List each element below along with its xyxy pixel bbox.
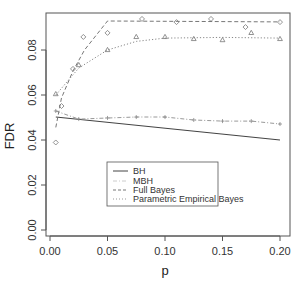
- y-tick-label: 0.08: [26, 39, 38, 60]
- y-axis: 0.000.020.040.060.08: [26, 39, 46, 240]
- fdr-line-chart: 0.000.050.100.150.20 0.000.020.040.060.0…: [0, 0, 303, 285]
- x-tick-label: 0.15: [212, 245, 233, 257]
- legend: BH MBH Full Bayes Parametric Empirical B…: [107, 162, 244, 206]
- mbh-line: [56, 111, 280, 124]
- y-tick-label: 0.00: [26, 219, 38, 240]
- diamond-marker: [174, 20, 179, 25]
- diamond-marker: [278, 20, 283, 25]
- x-tick-label: 0.10: [154, 245, 175, 257]
- series-layer: [53, 16, 282, 145]
- legend-label-peb: Parametric Empirical Bayes: [133, 194, 244, 204]
- y-tick-label: 0.04: [26, 129, 38, 150]
- triangle-marker: [220, 38, 225, 42]
- legend-label-bh: BH: [133, 166, 146, 176]
- x-axis: 0.000.050.100.150.20: [39, 236, 290, 257]
- triangle-marker: [53, 92, 58, 96]
- triangle-marker: [134, 34, 139, 38]
- x-tick-label: 0.00: [39, 245, 60, 257]
- y-axis-title: FDR: [2, 123, 17, 150]
- y-tick-label: 0.06: [26, 84, 38, 105]
- x-axis-title: p: [161, 263, 168, 278]
- diamond-marker: [243, 25, 248, 30]
- triangle-marker: [249, 30, 254, 34]
- diamond-marker: [105, 30, 110, 35]
- full-bayes-line: [56, 21, 280, 127]
- x-tick-label: 0.05: [97, 245, 118, 257]
- diamond-marker: [209, 16, 214, 21]
- x-tick-label: 0.20: [269, 245, 290, 257]
- triangle-marker: [191, 36, 196, 40]
- y-tick-label: 0.02: [26, 174, 38, 195]
- triangle-marker: [278, 36, 283, 40]
- diamond-marker: [53, 140, 58, 145]
- parametric-empirical-bayes-line: [56, 37, 280, 95]
- diamond-marker: [81, 34, 86, 39]
- bh-line: [56, 117, 280, 140]
